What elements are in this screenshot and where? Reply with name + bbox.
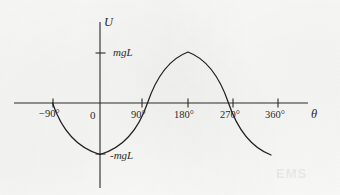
x-tick-label-360: 360° (265, 110, 285, 121)
x-axis-label: θ (311, 108, 317, 121)
plot-canvas (0, 0, 340, 195)
potential-energy-figure: U θ mgL -mgL 0 −90° 90° 180° 270° 360° E… (0, 0, 340, 195)
x-tick-label-180: 180° (174, 110, 194, 121)
y-tick-label-mgl: mgL (113, 47, 133, 58)
x-tick-label-270: 270° (220, 110, 240, 121)
x-tick-label-90: 90° (131, 110, 146, 121)
y-axis-label: U (104, 16, 113, 29)
origin-label: 0 (90, 110, 96, 121)
y-tick-label-neg-mgl: -mgL (110, 150, 133, 161)
x-tick-label-neg90: −90° (39, 109, 60, 120)
